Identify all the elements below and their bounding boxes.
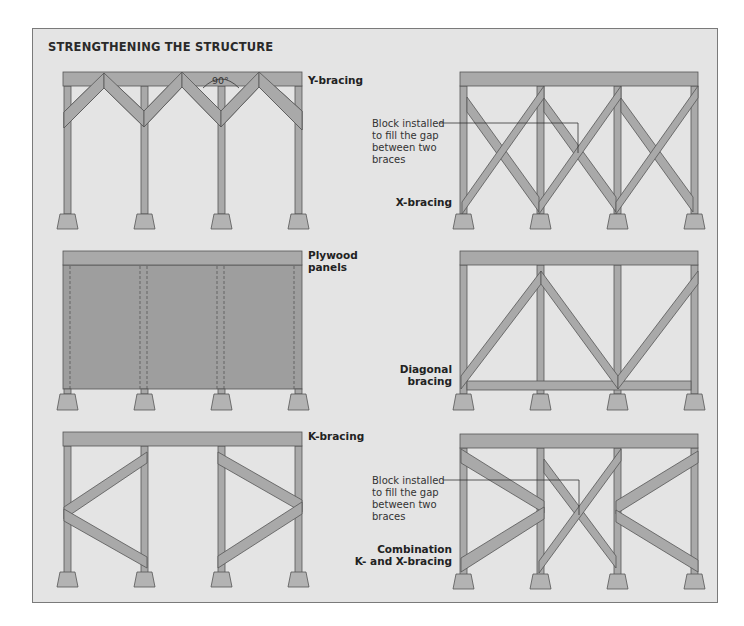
label-diagonal-bracing: Diagonal bracing	[372, 363, 452, 387]
y-bracing-diagram	[57, 72, 309, 229]
note-line: between two	[372, 142, 445, 154]
label-x-bracing: X-bracing	[372, 196, 452, 208]
note-line: braces	[372, 511, 445, 523]
note-line: to fill the gap	[372, 487, 445, 499]
label-line: bracing	[372, 375, 452, 387]
label-combination-bracing: Combination K- and X-bracing	[340, 543, 452, 567]
note-line: to fill the gap	[372, 130, 445, 142]
bracing-diagrams: .m { fill:#a9a9a9; stroke:#555; stroke-w…	[0, 0, 744, 626]
note-block-installed-x: Block installed to fill the gap between …	[372, 118, 445, 166]
label-line: Plywood	[308, 249, 358, 261]
note-line: braces	[372, 154, 445, 166]
note-line: Block installed	[372, 475, 445, 487]
plywood-panels-diagram	[57, 251, 309, 410]
label-line: K- and X-bracing	[340, 555, 452, 567]
label-line: panels	[308, 261, 358, 273]
diagonal-bracing-diagram	[453, 251, 705, 410]
label-k-bracing: K-bracing	[308, 430, 364, 442]
note-block-installed-combination: Block installed to fill the gap between …	[372, 475, 445, 523]
note-line: Block installed	[372, 118, 445, 130]
label-y-bracing: Y-bracing	[308, 74, 363, 86]
combination-bracing-diagram	[443, 434, 705, 589]
k-bracing-diagram	[57, 432, 309, 587]
label-line: Diagonal	[372, 363, 452, 375]
label-line: Combination	[340, 543, 452, 555]
label-plywood-panels: Plywood panels	[308, 249, 358, 273]
note-line: between two	[372, 499, 445, 511]
x-bracing-diagram	[439, 72, 705, 229]
angle-annotation: 90°	[212, 75, 229, 86]
